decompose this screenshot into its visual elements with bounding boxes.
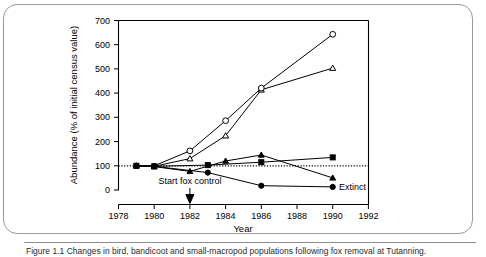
x-tick-label: 1978	[108, 211, 128, 221]
filled-square-series-line	[136, 157, 332, 166]
y-tick-label: 700	[95, 16, 110, 26]
x-tick-label: 1986	[251, 211, 271, 221]
y-tick-label: 200	[95, 137, 110, 147]
x-axis-title: Year	[233, 223, 252, 234]
x-tick-label: 1990	[323, 211, 343, 221]
x-tick-label: 1982	[180, 211, 200, 221]
figure-root: 700 600 500 400 300 200 100 0	[0, 0, 486, 257]
start-fox-control-arrow-icon	[186, 188, 194, 204]
figure-caption: Figure 1.1 Changes in bird, bandicoot an…	[26, 245, 466, 257]
y-axis-ticks	[114, 21, 119, 191]
x-tick-label: 1988	[287, 211, 307, 221]
x-tick-label: 1980	[144, 211, 164, 221]
y-axis-title: Abundance (% of initial census value)	[68, 26, 79, 184]
y-tick-label: 0	[105, 185, 110, 195]
y-tick-label: 500	[95, 64, 110, 74]
chart-canvas: 700 600 500 400 300 200 100 0	[0, 0, 486, 257]
y-axis-tick-labels: 700 600 500 400 300 200 100 0	[95, 16, 110, 196]
caption-divider	[24, 242, 476, 243]
x-axis-ticks	[119, 205, 369, 210]
x-tick-label: 1992	[358, 211, 378, 221]
y-tick-label: 400	[95, 88, 110, 98]
open-triangle-series-line	[136, 68, 332, 166]
y-tick-label: 100	[95, 161, 110, 171]
x-axis-tick-labels: 1978 1980 1982 1984 1986 1988 1990 1992	[108, 211, 378, 221]
extinct-label: Extinct	[339, 182, 367, 192]
y-tick-label: 300	[95, 112, 110, 122]
line-chart-svg: 700 600 500 400 300 200 100 0	[0, 0, 486, 257]
start-fox-control-label: Start fox control	[158, 176, 221, 186]
x-tick-label: 1984	[216, 211, 236, 221]
open-circle-series-line	[136, 34, 332, 166]
y-tick-label: 600	[95, 40, 110, 50]
